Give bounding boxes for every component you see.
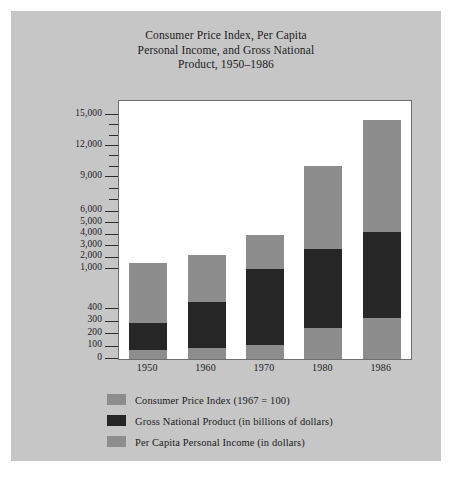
y-axis: 01002003004001,0002,0003,0004,0005,0006,… bbox=[11, 100, 118, 360]
y-axis-tick-label: 3,000 bbox=[80, 239, 102, 249]
bar-segment-gnp bbox=[188, 302, 226, 348]
y-axis-tick-mark bbox=[105, 211, 118, 212]
y-axis-minor-tick bbox=[11, 155, 118, 156]
bar-1950 bbox=[129, 263, 167, 359]
legend-label-pcpi: Per Capita Personal Income (in dollars) bbox=[135, 437, 305, 448]
y-axis-tick: 12,000 bbox=[11, 145, 118, 146]
y-axis-minor-tick bbox=[11, 199, 118, 200]
y-axis-tick-label: 5,000 bbox=[80, 216, 102, 226]
y-axis-tick-label: 400 bbox=[87, 302, 102, 312]
y-axis-tick: 300 bbox=[11, 321, 118, 322]
y-axis-tick-mark bbox=[105, 308, 118, 309]
y-axis-tick: 2,000 bbox=[11, 257, 118, 258]
bar-segment-gnp bbox=[246, 269, 284, 345]
y-axis-tick-label: 300 bbox=[87, 314, 102, 324]
y-axis-tick-label: 12,000 bbox=[75, 139, 102, 149]
bar-segment-cpi bbox=[363, 318, 401, 359]
bar-1960 bbox=[188, 255, 226, 359]
chart-title-line-1: Consumer Price Index, Per Capita bbox=[11, 28, 441, 43]
bar-segment-pcpi bbox=[363, 120, 401, 232]
x-axis-label-1986: 1986 bbox=[353, 362, 409, 373]
bar-1980 bbox=[304, 166, 342, 359]
y-axis-tick: 400 bbox=[11, 308, 118, 309]
y-axis-tick-label: 100 bbox=[87, 339, 102, 349]
bar-segment-pcpi bbox=[188, 255, 226, 302]
y-axis-tick-label: 0 bbox=[97, 352, 102, 362]
y-axis-tick-mark bbox=[105, 176, 118, 177]
bar-segment-gnp bbox=[304, 249, 342, 328]
x-axis-label-1970: 1970 bbox=[236, 362, 292, 373]
y-axis-tick-mark bbox=[105, 245, 118, 246]
x-axis-label-1980: 1980 bbox=[294, 362, 350, 373]
y-axis-tick-label: 2,000 bbox=[80, 250, 102, 260]
y-axis-tick: 3,000 bbox=[11, 245, 118, 246]
y-axis-tick-label: 1,000 bbox=[80, 262, 102, 272]
bar-1986 bbox=[363, 120, 401, 359]
y-axis-tick: 1,000 bbox=[11, 268, 118, 269]
bar-segment-pcpi bbox=[246, 235, 284, 269]
bar-1970 bbox=[246, 235, 284, 359]
y-axis-tick-mark bbox=[109, 199, 118, 200]
y-axis-tick: 100 bbox=[11, 346, 118, 347]
bar-segment-cpi bbox=[129, 350, 167, 359]
chart-title-line-3: Product, 1950–1986 bbox=[11, 57, 441, 72]
y-axis-tick: 4,000 bbox=[11, 234, 118, 235]
y-axis-tick-mark bbox=[105, 321, 118, 322]
y-axis-tick: 0 bbox=[11, 358, 118, 359]
y-axis-tick-label: 9,000 bbox=[80, 170, 102, 180]
x-axis-label-1950: 1950 bbox=[119, 362, 175, 373]
y-axis-tick-mark bbox=[105, 257, 118, 258]
legend-swatch-pcpi bbox=[107, 436, 126, 447]
chart-title: Consumer Price Index, Per Capita Persona… bbox=[11, 28, 441, 72]
y-axis-tick-mark bbox=[109, 188, 118, 189]
y-axis-tick-mark bbox=[105, 346, 118, 347]
legend-label-gnp: Gross National Product (in billions of d… bbox=[135, 416, 333, 427]
y-axis-tick-mark bbox=[105, 358, 118, 359]
y-axis-tick-mark bbox=[105, 222, 118, 223]
y-axis-minor-tick bbox=[11, 188, 118, 189]
bar-segment-gnp bbox=[363, 232, 401, 318]
chart-page: Consumer Price Index, Per Capita Persona… bbox=[11, 11, 441, 461]
legend-item-pcpi[interactable]: Per Capita Personal Income (in dollars) bbox=[11, 432, 441, 453]
bar-segment-cpi bbox=[188, 348, 226, 359]
y-axis-tick-mark bbox=[105, 333, 118, 334]
y-axis-tick: 9,000 bbox=[11, 176, 118, 177]
legend-item-cpi[interactable]: Consumer Price Index (1967 = 100) bbox=[11, 390, 441, 411]
y-axis-tick-mark bbox=[105, 114, 118, 115]
y-axis-minor-tick bbox=[11, 124, 118, 125]
y-axis-tick-mark bbox=[105, 234, 118, 235]
y-axis-tick-label: 15,000 bbox=[75, 108, 102, 118]
bar-segment-cpi bbox=[304, 328, 342, 359]
bar-segment-pcpi bbox=[129, 263, 167, 323]
x-axis: 19501960197019801986 bbox=[118, 362, 410, 378]
y-axis-tick-mark bbox=[109, 155, 118, 156]
y-axis-tick: 15,000 bbox=[11, 114, 118, 115]
legend-label-cpi: Consumer Price Index (1967 = 100) bbox=[135, 395, 290, 406]
bar-segment-gnp bbox=[129, 323, 167, 350]
chart-legend: Consumer Price Index (1967 = 100)Gross N… bbox=[11, 390, 441, 453]
y-axis-tick-mark bbox=[109, 166, 118, 167]
y-axis-tick: 6,000 bbox=[11, 211, 118, 212]
legend-item-gnp[interactable]: Gross National Product (in billions of d… bbox=[11, 411, 441, 432]
bar-group bbox=[119, 101, 411, 359]
y-axis-tick-mark bbox=[109, 135, 118, 136]
legend-swatch-gnp bbox=[107, 415, 126, 426]
y-axis-tick-label: 200 bbox=[87, 327, 102, 337]
y-axis-tick-mark bbox=[105, 268, 118, 269]
y-axis-tick: 5,000 bbox=[11, 222, 118, 223]
legend-swatch-cpi bbox=[107, 394, 126, 405]
y-axis-minor-tick bbox=[11, 166, 118, 167]
x-axis-label-1960: 1960 bbox=[178, 362, 234, 373]
y-axis-tick: 200 bbox=[11, 333, 118, 334]
plot-area bbox=[118, 100, 412, 360]
y-axis-tick-label: 4,000 bbox=[80, 227, 102, 237]
y-axis-tick-mark bbox=[109, 124, 118, 125]
y-axis-tick-mark bbox=[105, 145, 118, 146]
bar-segment-cpi bbox=[246, 345, 284, 360]
y-axis-tick-label: 6,000 bbox=[80, 204, 102, 214]
chart-title-line-2: Personal Income, and Gross National bbox=[11, 43, 441, 58]
y-axis-minor-tick bbox=[11, 135, 118, 136]
bar-segment-pcpi bbox=[304, 166, 342, 249]
